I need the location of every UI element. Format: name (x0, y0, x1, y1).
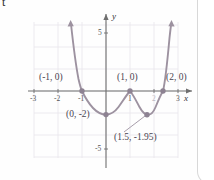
axis-lines (28, 14, 192, 168)
y-axis-label: y (112, 12, 116, 21)
y-axis-arrow (103, 14, 108, 20)
point-local-min (144, 112, 149, 117)
graph-svg (0, 0, 214, 180)
point-root-1 (127, 88, 132, 93)
point-root-2 (160, 88, 165, 93)
figure-page: t (0, 0, 214, 180)
x-tick-label-neg1: -1 (78, 95, 84, 103)
x-tick-label-neg2: -2 (54, 95, 60, 103)
y-tick-label-5: 5 (98, 29, 102, 37)
label-local-min: (1.5, -1.95) (114, 133, 157, 143)
label-root-neg1: (-1, 0) (39, 73, 63, 83)
polynomial-graph-figure: (-1, 0) (1, 0) (2, 0) (0, -2) (1.5, -1.9… (0, 0, 214, 180)
x-tick-label-2: 2 (152, 95, 156, 103)
label-y-intercept: (0, -2) (66, 110, 90, 120)
x-tick-label-1: 1 (128, 95, 132, 103)
right-branch-arrow (168, 20, 174, 27)
y-tick-label-neg5: -5 (95, 145, 101, 153)
local-min-leader-line (124, 116, 145, 132)
polynomial-curve (71, 24, 171, 115)
label-root-1: (1, 0) (117, 73, 138, 83)
point-y-intercept (103, 112, 108, 117)
x-tick-label-neg3: -3 (30, 95, 36, 103)
label-root-2: (2, 0) (166, 73, 187, 83)
x-axis-label: x (184, 94, 188, 103)
point-root-neg1 (79, 88, 84, 93)
left-branch-arrow (68, 20, 74, 27)
x-tick-label-3: 3 (176, 95, 180, 103)
